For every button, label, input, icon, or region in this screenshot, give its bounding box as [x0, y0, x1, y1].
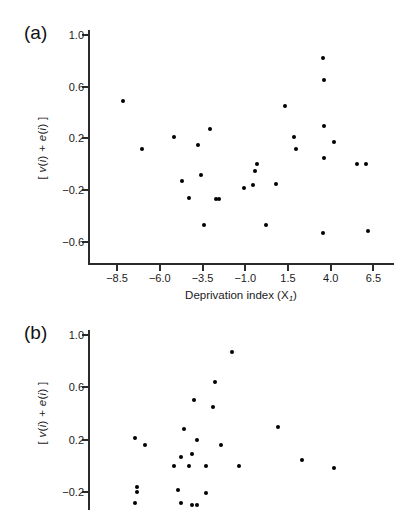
- panel-b-point: [187, 464, 191, 468]
- panel-a-y-tick-label: 0.2: [69, 132, 84, 144]
- panel-a-x-tick: [159, 265, 161, 271]
- panel-a-x-tick: [287, 265, 289, 271]
- panel-b-plot-area: [ v(i) + e(i) ] 1.00.60.2−0.2: [88, 330, 394, 510]
- panel-b-data-points: [88, 330, 394, 510]
- panel-a: (a) [ v(i) + e(i) ] Deprivation index (X…: [0, 0, 419, 300]
- panel-b-y-axis-title: [ v(i) + e(i) ]: [36, 381, 48, 444]
- panel-a-point: [217, 197, 221, 201]
- panel-a-x-tick-label: −3.5: [192, 272, 214, 284]
- panel-b-point: [230, 350, 234, 354]
- panel-b-y-tick-label: 1.0: [69, 329, 84, 341]
- panel-b-point: [133, 436, 137, 440]
- panel-b-point: [195, 438, 199, 442]
- panel-b-point: [182, 427, 186, 431]
- panel-a-point: [264, 223, 268, 227]
- panel-a-point: [242, 186, 246, 190]
- panel-b-letter: (b): [24, 323, 47, 342]
- panel-b-point: [192, 398, 196, 402]
- panel-b-y-tick-label: 0.6: [69, 381, 84, 393]
- panel-a-point: [283, 104, 287, 108]
- panel-a-point: [322, 124, 326, 128]
- panel-b-point: [211, 405, 215, 409]
- panel-b-y-tick-label: −0.2: [62, 486, 84, 498]
- panel-a-letter: (a): [24, 23, 47, 42]
- panel-a-y-tick-label: 0.6: [69, 81, 84, 93]
- panel-a-x-tick: [202, 265, 204, 271]
- panel-a-point: [208, 127, 212, 131]
- panel-b-point: [143, 443, 147, 447]
- panel-a-point: [251, 183, 255, 187]
- panel-a-point: [322, 78, 326, 82]
- panel-a-point: [255, 162, 259, 166]
- panel-b-point: [204, 491, 208, 495]
- panel-a-point: [202, 223, 206, 227]
- panel-b-point: [176, 488, 180, 492]
- panel-a-point: [355, 162, 359, 166]
- panel-b-point: [332, 466, 336, 470]
- panel-a-x-tick-label: −1.0: [234, 272, 256, 284]
- panel-a-y-tick-label: 1.0: [69, 29, 84, 41]
- panel-a-x-tick-label: 4.0: [323, 272, 338, 284]
- panel-a-point: [253, 169, 257, 173]
- panel-a-point: [364, 162, 368, 166]
- panel-a-point: [274, 182, 278, 186]
- panel-a-point: [366, 229, 370, 233]
- panel-b-point: [204, 464, 208, 468]
- panel-b-point: [190, 503, 194, 507]
- panel-a-data-points: [88, 30, 394, 265]
- panel-a-point: [121, 99, 125, 103]
- panel-a-point: [332, 140, 336, 144]
- panel-b-point: [179, 455, 183, 459]
- panel-a-x-tick: [244, 265, 246, 271]
- panel-a-point: [180, 179, 184, 183]
- panel-a-x-tick: [372, 265, 374, 271]
- panel-b-point: [213, 380, 217, 384]
- panel-b-point: [135, 485, 139, 489]
- panel-b-point: [276, 425, 280, 429]
- panel-a-point: [292, 135, 296, 139]
- panel-a-x-tick-label: 6.5: [366, 272, 381, 284]
- panel-a-point: [321, 231, 325, 235]
- panel-b-point: [237, 464, 241, 468]
- panel-b-point: [172, 464, 176, 468]
- panel-a-plot-area: [ v(i) + e(i) ] Deprivation index (X1) 1…: [88, 30, 394, 265]
- panel-a-y-axis-title: [ v(i) + e(i) ]: [36, 116, 48, 179]
- panel-b-point: [195, 503, 199, 507]
- panel-b-point: [190, 452, 194, 456]
- panel-b: (b) [ v(i) + e(i) ] 1.00.60.2−0.2: [0, 300, 419, 510]
- panel-a-point: [322, 156, 326, 160]
- panel-b-point: [133, 501, 137, 505]
- panel-b-point: [300, 458, 304, 462]
- figure-scatter-residual-plots: (a) [ v(i) + e(i) ] Deprivation index (X…: [0, 0, 419, 510]
- panel-a-x-tick: [330, 265, 332, 271]
- panel-a-point: [199, 173, 203, 177]
- panel-b-point: [219, 443, 223, 447]
- panel-b-point: [135, 490, 139, 494]
- panel-a-x-tick-label: −6.0: [149, 272, 171, 284]
- panel-b-y-tick-label: 0.2: [69, 434, 84, 446]
- panel-b-point: [179, 501, 183, 505]
- panel-a-point: [172, 135, 176, 139]
- panel-a-point: [196, 143, 200, 147]
- panel-a-point: [140, 147, 144, 151]
- panel-a-x-tick-label: 1.5: [280, 272, 295, 284]
- panel-a-x-tick: [116, 265, 118, 271]
- panel-a-point: [187, 196, 191, 200]
- panel-a-point: [294, 147, 298, 151]
- panel-a-point: [321, 56, 325, 60]
- panel-a-y-tick-label: −0.2: [62, 184, 84, 196]
- panel-a-x-tick-label: −8.5: [106, 272, 128, 284]
- panel-a-y-tick-label: −0.6: [62, 236, 84, 248]
